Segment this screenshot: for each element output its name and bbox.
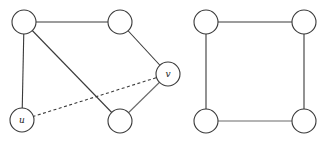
right-graph-node-r [292, 109, 316, 133]
left-graph-node-c [108, 109, 132, 133]
diagram-canvas: u v [0, 0, 325, 142]
left-graph-edge-a-u [22, 22, 24, 120]
right-graph-node-s [194, 109, 218, 133]
graph-diagram [0, 0, 325, 142]
left-graph-node-b [108, 10, 132, 34]
right-graph-node-p [194, 10, 218, 34]
left-graph-node-a [12, 10, 36, 34]
nodes-layer [10, 10, 316, 133]
node-label-v: v [165, 69, 170, 79]
node-label-u: u [19, 115, 25, 125]
right-graph-node-q [292, 10, 316, 34]
left-graph-edge-a-c [24, 22, 120, 121]
left-graph-edge-u-v [22, 74, 168, 120]
